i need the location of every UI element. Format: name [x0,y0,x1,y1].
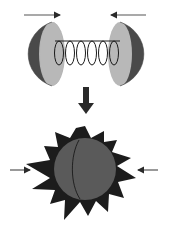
left-hemisphere [28,22,65,86]
transition-arrow-down [78,87,94,114]
right-hemisphere [108,22,144,86]
spring-collapse-diagram [0,0,171,236]
collapsed-sphere [54,138,116,200]
diagram-canvas [0,0,171,236]
